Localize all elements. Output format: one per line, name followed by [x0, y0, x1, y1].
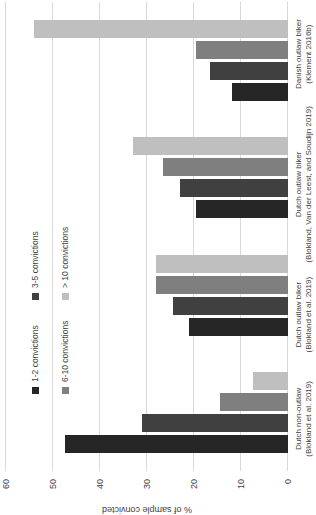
bar	[253, 372, 288, 390]
category-label: Dutch outlaw biker(Blokland, Van der Lee…	[294, 106, 314, 262]
bar-group	[65, 354, 288, 471]
y-tick-label: 40	[95, 479, 106, 515]
plot-area: 1-2 convictions 3-5 convictions 6-10 con…	[6, 2, 288, 471]
bar	[232, 83, 288, 101]
legend-swatch-icon	[62, 387, 69, 394]
category-label-line1: Dutch outlaw biker	[294, 106, 304, 262]
chart-canvas: % of sample convicted 0102030405060 1-2 …	[0, 0, 316, 515]
bar-group	[156, 237, 288, 354]
bar	[156, 276, 288, 294]
bar	[196, 41, 288, 59]
category-label-line1: Danish outlaw biker	[294, 2, 304, 106]
bar	[163, 158, 288, 176]
y-tick-label: 20	[189, 479, 200, 515]
category-label-line1: Dutch non-outlaw	[294, 367, 304, 471]
category-label: Dutch outlaw biker(Blokland et al. 2019)	[294, 263, 314, 367]
bar	[196, 200, 288, 218]
bar	[180, 179, 288, 197]
legend-label: > 10 convictions	[60, 227, 70, 288]
legend-label: 1-2 convictions	[30, 325, 40, 382]
legend: 1-2 convictions 3-5 convictions 6-10 con…	[30, 227, 70, 394]
bar	[220, 393, 288, 411]
rotated-bar-chart: % of sample convicted 0102030405060 1-2 …	[0, 0, 316, 515]
category-label-line2: (Klement 2016b)	[304, 2, 314, 106]
legend-label: 6-10 convictions	[60, 321, 70, 382]
bar	[142, 414, 288, 432]
category-label: Danish outlaw biker(Klement 2016b)	[294, 2, 314, 106]
y-tick-label: 50	[48, 479, 59, 515]
bar	[189, 318, 288, 336]
category-label-line1: Dutch outlaw biker	[294, 263, 304, 367]
y-tick-label: 30	[142, 479, 153, 515]
y-tick-label: 60	[1, 479, 12, 515]
bar-group	[34, 2, 288, 119]
bar	[156, 255, 288, 273]
legend-swatch-icon	[32, 293, 39, 300]
bar	[173, 297, 288, 315]
y-tick-label: 0	[283, 479, 294, 515]
legend-swatch-icon	[32, 387, 39, 394]
bar	[210, 62, 288, 80]
legend-label: 3-5 convictions	[30, 231, 40, 288]
bar	[65, 435, 288, 453]
category-axis-labels: Dutch non-outlaw(Blokland et al. 2019)Du…	[294, 2, 314, 471]
legend-item: 1-2 convictions	[30, 300, 40, 394]
legend-item: > 10 convictions	[60, 227, 70, 300]
category-label-line2: (Blokland et al. 2019)	[304, 367, 314, 471]
legend-swatch-icon	[62, 293, 69, 300]
y-tick-label: 10	[236, 479, 247, 515]
category-label-line2: (Blokland et al. 2019)	[304, 263, 314, 367]
category-label: Dutch non-outlaw(Blokland et al. 2019)	[294, 367, 314, 471]
bar-group	[133, 119, 288, 236]
legend-item: 3-5 convictions	[30, 227, 40, 300]
category-label-line2: (Blokland, Van der Leest, and Soudijn 20…	[304, 106, 314, 262]
bar	[133, 137, 288, 155]
y-axis-tick-labels: 0102030405060	[6, 475, 288, 515]
legend-item: 6-10 convictions	[60, 300, 70, 394]
bar	[34, 20, 288, 38]
